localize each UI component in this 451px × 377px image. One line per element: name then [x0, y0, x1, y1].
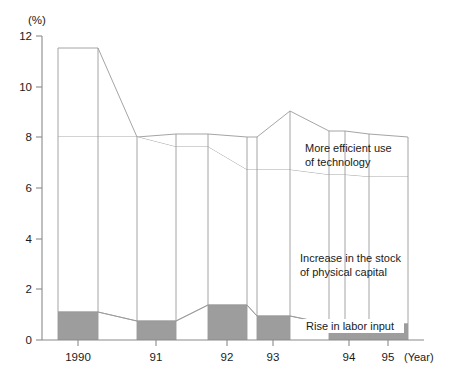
labor-label-line1: Rise in labor input [306, 320, 394, 332]
technology-label-line2: of technology [305, 156, 371, 168]
chart-canvas: (%) 12 10 8 6 4 2 0 1990 91 92 93 94 95 … [0, 0, 451, 377]
x-tick-label-95: 95 [382, 351, 395, 363]
labor-bar-93 [257, 316, 290, 340]
y-tick-label-12: 12 [19, 30, 32, 42]
y-tick-label-0: 0 [26, 334, 32, 346]
labor-bar-91 [137, 321, 176, 340]
stacked-area-chart: (%) 12 10 8 6 4 2 0 1990 91 92 93 94 95 … [0, 0, 451, 377]
x-tick-label-94: 94 [343, 351, 356, 363]
x-axis-caption: (Year) [404, 351, 434, 363]
x-tick-label-91: 91 [150, 351, 163, 363]
y-tick-label-10: 10 [19, 81, 32, 93]
y-tick-label-6: 6 [26, 182, 32, 194]
y-axis-unit-label: (%) [28, 14, 46, 26]
labor-bar-1990 [58, 312, 98, 340]
x-tick-label-93: 93 [267, 351, 280, 363]
capital-label-line2: of physical capital [300, 266, 387, 278]
annotation-labor-input: Rise in labor input [303, 319, 404, 333]
labor-bar-92 [208, 305, 247, 340]
y-tick-label-2: 2 [26, 283, 32, 295]
x-tick-label-92: 92 [221, 351, 234, 363]
capital-label-line1: Increase in the stock [300, 252, 401, 264]
technology-label-line1: More efficient use [305, 142, 392, 154]
y-tick-label-8: 8 [26, 131, 32, 143]
y-tick-label-4: 4 [26, 233, 33, 245]
x-tick-label-1990: 1990 [65, 351, 91, 363]
